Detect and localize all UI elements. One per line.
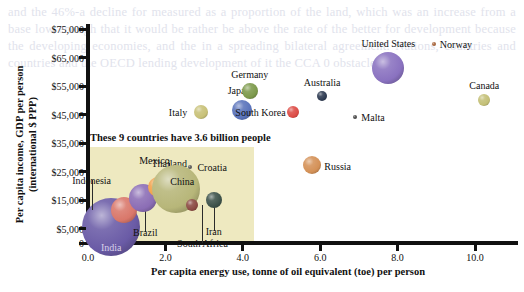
x-tick-label: 8.0: [391, 252, 404, 263]
point-label-norway: Norway: [440, 38, 472, 49]
x-tick-label: 4.0: [237, 252, 250, 263]
y-tick-mark: [79, 113, 86, 116]
bubble-malta[interactable]: [353, 115, 357, 119]
x-tick-mark: [474, 245, 477, 251]
point-label-australia: Australia: [304, 77, 341, 88]
y-axis-label-line2: (international $ PPP): [26, 45, 39, 245]
bubble-italy[interactable]: [194, 105, 208, 119]
y-tick-mark: [79, 85, 86, 88]
bubble-russia[interactable]: [303, 156, 321, 174]
y-tick-mark: [79, 199, 86, 202]
y-tick-mark: [79, 242, 86, 245]
y-tick-mark: [79, 56, 86, 59]
x-axis-line: [86, 241, 518, 245]
point-label-croatia: Croatia: [197, 161, 226, 172]
x-tick-mark: [319, 245, 322, 251]
bubble-south-korea[interactable]: [287, 106, 299, 118]
point-label-india: India: [101, 241, 122, 252]
y-tick-mark: [79, 28, 86, 31]
y-axis-label: Per capita income, GDP per person (inter…: [14, 45, 39, 245]
bubble-canada[interactable]: [478, 94, 490, 106]
x-tick-label: 6.0: [314, 252, 327, 263]
y-tick-mark: [79, 142, 86, 145]
x-axis-label: Per capita energy use, tonne of oil equi…: [88, 266, 488, 277]
bubble-south-africa[interactable]: [186, 199, 198, 211]
point-label-south-korea: South Korea: [235, 107, 285, 118]
x-tick-label: 2.0: [159, 252, 172, 263]
annotation-note: These 9 countries have 3.6 billion peopl…: [90, 132, 271, 143]
x-tick-mark: [241, 245, 244, 251]
point-label-south-africa: South Africa: [177, 238, 228, 249]
bubble-united-states[interactable]: [372, 52, 404, 84]
scatter-chart: These 9 countries have 3.6 billion peopl…: [0, 0, 524, 292]
point-label-italy: Italy: [169, 107, 187, 118]
bubble-germany[interactable]: [242, 83, 258, 99]
x-tick-label: 10.0: [466, 252, 484, 263]
point-label-russia: Russia: [324, 161, 351, 172]
point-label-malta: Malta: [361, 112, 384, 123]
y-tick-mark: [79, 227, 86, 230]
point-label-united-states: United States: [361, 37, 415, 48]
bubble-croatia[interactable]: [188, 165, 192, 169]
point-label-china: China: [170, 175, 194, 186]
x-tick-mark: [164, 245, 167, 251]
bubble-norway[interactable]: [432, 42, 436, 46]
point-label-indonesia: Indonesia: [72, 175, 111, 186]
y-tick-mark: [79, 170, 86, 173]
point-label-brazil: Brazil: [133, 226, 157, 237]
x-tick-label: 0.0: [82, 252, 95, 263]
point-label-germany: Germany: [231, 69, 268, 80]
bubble-australia[interactable]: [317, 91, 327, 101]
y-axis-label-line1: Per capita income, GDP per person: [14, 45, 27, 245]
x-tick-mark: [396, 245, 399, 251]
point-label-iran: Iran: [206, 225, 222, 236]
point-label-canada: Canada: [469, 79, 499, 90]
bubble-iran[interactable]: [206, 192, 222, 208]
